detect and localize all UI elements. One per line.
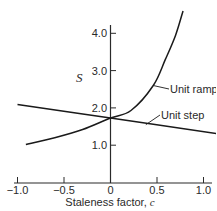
series-group: [18, 11, 217, 145]
x-axis-title: Staleness factor, c: [65, 196, 154, 208]
y-tick-label: 2.0: [92, 102, 107, 114]
x-tick-label: 0: [107, 184, 113, 196]
y-ticks: 1.02.03.04.0: [92, 27, 116, 151]
chart-canvas: −1.0−0.500.51.0 1.02.03.04.0 Unit rampUn…: [0, 0, 216, 211]
x-tick-label: −0.5: [53, 184, 75, 196]
x-axis-variable: c: [150, 196, 155, 208]
y-tick-label: 3.0: [92, 65, 107, 77]
series-label: Unit ramp: [170, 83, 216, 95]
y-axis-label: S: [76, 70, 83, 85]
y-tick-label: 4.0: [92, 27, 107, 39]
annotation-leader: [146, 115, 160, 125]
annotations: Unit rampUnit step: [146, 83, 216, 125]
x-tick-label: −1.0: [7, 184, 29, 196]
x-ticks: −1.0−0.500.51.0: [7, 177, 212, 196]
x-tick-label: 1.0: [196, 184, 211, 196]
annotation-leader: [153, 86, 169, 89]
series-label: Unit step: [161, 109, 204, 121]
x-tick-label: 0.5: [149, 184, 164, 196]
y-tick-label: 1.0: [92, 139, 107, 151]
